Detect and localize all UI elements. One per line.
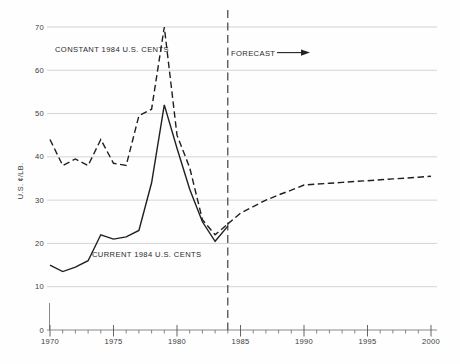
x-tick-label: 1990 (295, 337, 313, 346)
x-tick-label: 1980 (168, 337, 186, 346)
y-tick-label: 50 (35, 109, 44, 118)
x-tick-label: 1985 (232, 337, 250, 346)
x-tick-label: 1995 (359, 337, 377, 346)
y-tick-label: 60 (35, 66, 44, 75)
y-tick-label: 10 (35, 282, 44, 291)
x-tick-label: 2000 (422, 337, 440, 346)
ticks-layer (50, 325, 431, 337)
y-tick-label: 70 (35, 23, 44, 32)
chart-canvas: 1970197519801985199019952000010203040506… (0, 0, 460, 364)
current-cents-series-line (50, 105, 228, 272)
data-series-layer (50, 27, 431, 272)
forecast-label: FORECAST (231, 49, 275, 58)
commodity-price-forecast-chart: 1970197519801985199019952000010203040506… (0, 0, 460, 364)
forecast-arrow-icon (277, 49, 310, 55)
x-tick-label: 1970 (41, 337, 59, 346)
constant-cents-series-line (50, 27, 228, 235)
axes-layer (47, 303, 437, 330)
y-tick-label: 0 (40, 326, 44, 335)
y-axis-title: U.S. ¢/LB. (16, 163, 25, 200)
y-tick-label: 40 (35, 152, 44, 161)
gridlines-layer (47, 27, 437, 287)
y-tick-label: 20 (35, 239, 44, 248)
tick-labels-layer: 1970197519801985199019952000010203040506… (35, 23, 440, 346)
current-series-label: CURRENT 1984 U.S. CENTS (92, 250, 201, 259)
y-tick-label: 30 (35, 196, 44, 205)
constant-series-label: CONSTANT 1984 U.S. CENTS (55, 45, 169, 54)
x-tick-label: 1975 (105, 337, 123, 346)
